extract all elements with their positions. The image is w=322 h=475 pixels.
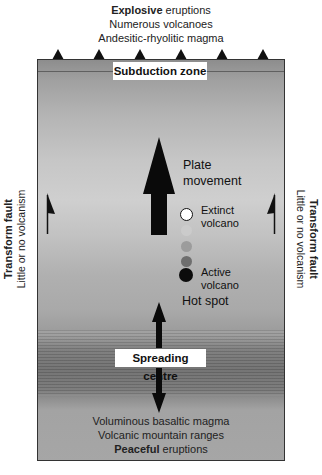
spreading-down-arrow-icon [152, 368, 166, 413]
volcano-age-dot [181, 225, 192, 236]
bottom-caption-line2: Volcanic mountain ranges [0, 428, 322, 442]
active-volcano-label: Active volcano [201, 266, 239, 292]
left-transform-fault-subtitle: Little or no volcanism [15, 190, 27, 289]
right-transform-fault-label: Transform fault Little or no volcanism [294, 149, 320, 329]
left-transform-arrow-icon [47, 193, 55, 234]
spreading-up-arrow-icon [152, 302, 166, 348]
extinct-volcano-dot [180, 208, 193, 221]
arrows-layer [0, 0, 322, 475]
bottom-caption-line1: Voluminous basaltic magma [0, 414, 322, 428]
left-transform-fault-label: Transform fault Little or no volcanism [2, 149, 28, 329]
left-transform-fault-title: Transform fault [2, 149, 15, 329]
bottom-caption-line3: Peaceful eruptions [0, 442, 322, 456]
right-transform-arrow-icon [267, 193, 275, 234]
right-transform-fault-subtitle: Little or no volcanism [295, 190, 307, 289]
right-transform-fault-title: Transform fault [307, 149, 320, 329]
extinct-volcano-label: Extinct volcano [201, 204, 239, 230]
volcano-age-dot [181, 256, 192, 267]
bottom-caption: Voluminous basaltic magma Volcanic mount… [0, 414, 322, 456]
plate-movement-arrow-icon [143, 137, 175, 235]
plate-movement-label: Plate movement [183, 157, 241, 189]
active-volcano-dot [179, 268, 193, 282]
hot-spot-label: Hot spot [182, 293, 229, 309]
volcano-age-dot [181, 241, 192, 252]
